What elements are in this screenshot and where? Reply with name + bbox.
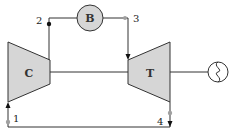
brayton-cycle-diagram: C T 2 B 3 4 1 — [0, 0, 233, 133]
state-point-2-marker — [47, 22, 51, 26]
compressor-label: C — [25, 67, 34, 80]
state-point-1-label: 1 — [13, 113, 19, 124]
burner: B — [77, 5, 103, 31]
pipe-4-to-1 — [8, 102, 170, 127]
generator-icon — [208, 62, 228, 82]
state-point-3-marker — [123, 16, 127, 20]
pipe-2-to-burner — [49, 18, 77, 60]
turbine-label: T — [146, 67, 155, 80]
arrow-exhaust-down — [168, 121, 173, 127]
state-point-3-label: 3 — [133, 13, 139, 24]
state-point-4-marker — [168, 111, 172, 115]
burner-label: B — [85, 12, 94, 25]
turbine: T — [128, 42, 170, 102]
compressor: C — [8, 42, 50, 102]
arrow-into-compressor — [6, 102, 11, 108]
pipe-burner-to-turbine — [103, 18, 128, 58]
state-point-2-label: 2 — [36, 15, 42, 26]
state-point-1-marker — [6, 120, 10, 124]
state-point-4-label: 4 — [157, 116, 163, 127]
